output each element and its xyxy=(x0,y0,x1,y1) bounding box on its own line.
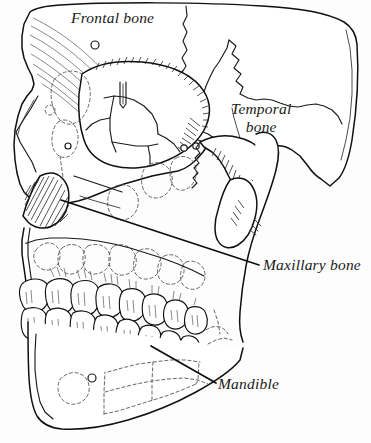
infraorbital-foramen xyxy=(65,143,71,149)
mental-foramen xyxy=(88,374,96,382)
frontal-foramen xyxy=(91,41,99,49)
label-temporal-bone-line2: bone xyxy=(231,118,291,136)
label-frontal-bone: Frontal bone xyxy=(71,9,154,27)
label-mandible-text: Mandible xyxy=(218,375,279,392)
label-frontal-bone-text: Frontal bone xyxy=(71,9,154,26)
label-maxillary-bone: Maxillary bone xyxy=(263,256,361,274)
label-temporal-bone-line1: Temporal xyxy=(231,100,291,118)
label-mandible: Mandible xyxy=(218,375,279,393)
label-temporal-bone: Temporal bone xyxy=(231,100,291,136)
label-maxillary-bone-text: Maxillary bone xyxy=(263,256,361,273)
skull-drawing xyxy=(0,0,371,443)
skull-diagram: Frontal bone Temporal bone Maxillary bon… xyxy=(0,0,371,443)
